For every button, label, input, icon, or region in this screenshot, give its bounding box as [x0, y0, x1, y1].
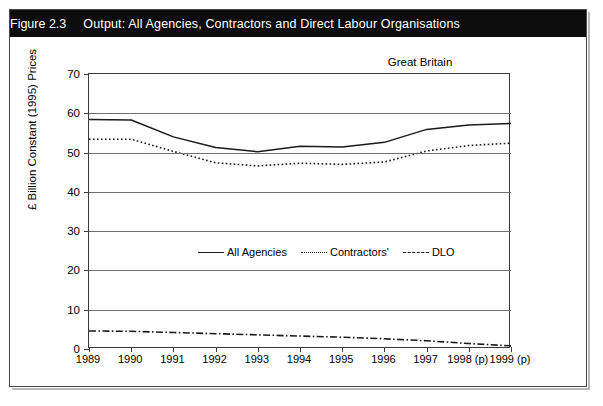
x-axis-tick-label: 1998 (p)	[447, 353, 488, 365]
series-lines-group	[89, 74, 511, 349]
y-axis-tick-label: 40	[67, 186, 80, 198]
x-axis-tick-label: 1997	[413, 353, 437, 365]
x-axis-tick	[216, 347, 217, 352]
y-axis-tick	[84, 231, 89, 232]
legend-label-contractors: Contractors'	[330, 246, 389, 258]
x-axis-tick	[427, 347, 428, 352]
legend-label-all-agencies: All Agencies	[227, 246, 287, 258]
y-axis-tick-label: 30	[67, 225, 80, 237]
y-axis-tick	[84, 113, 89, 114]
y-axis-tick-label: 20	[67, 264, 80, 276]
y-axis-tick-label: 60	[67, 107, 80, 119]
gridline	[89, 231, 511, 232]
x-axis-tick	[342, 347, 343, 352]
x-axis-tick-label: 1993	[245, 353, 269, 365]
x-axis-tick	[173, 347, 174, 352]
x-axis-tick	[131, 347, 132, 352]
x-axis-tick-label: 1999 (p)	[490, 353, 531, 365]
y-axis-tick	[84, 153, 89, 154]
chart-canvas: £ Billion Constant (1995) Prices Great B…	[0, 0, 603, 406]
legend-swatch-solid-icon	[198, 252, 224, 253]
region-annotation: Great Britain	[388, 56, 453, 68]
plot-frame: 010203040506070	[88, 73, 510, 348]
x-axis-tick	[511, 347, 512, 352]
gridline	[89, 192, 511, 193]
x-axis-tick	[469, 347, 470, 352]
chart-legend: All Agencies Contractors' DLO	[198, 246, 455, 258]
legend-item-all-agencies: All Agencies	[198, 246, 287, 258]
x-axis-tick-label: 1996	[371, 353, 395, 365]
y-axis-tick	[84, 270, 89, 271]
x-axis-tick	[258, 347, 259, 352]
legend-label-dlo: DLO	[432, 246, 455, 258]
legend-swatch-dotted-icon	[301, 252, 327, 253]
gridline	[89, 153, 511, 154]
x-axis-tick	[300, 347, 301, 352]
x-axis-tick-label: 1992	[202, 353, 226, 365]
y-axis-tick-label: 10	[67, 304, 80, 316]
x-axis-tick-label: 1991	[160, 353, 184, 365]
y-axis-title: £ Billion Constant (1995) Prices	[26, 49, 38, 210]
series-line-all-agencies	[89, 120, 511, 152]
y-axis-tick	[84, 74, 89, 75]
x-axis-tick-label: 1995	[329, 353, 353, 365]
x-axis-tick	[89, 347, 90, 352]
y-axis-tick	[84, 310, 89, 311]
legend-item-dlo: DLO	[403, 246, 455, 258]
gridline	[89, 270, 511, 271]
x-axis-tick-label: 1994	[287, 353, 311, 365]
series-line-dlo	[89, 331, 511, 346]
y-axis-tick	[84, 192, 89, 193]
x-axis-tick	[384, 347, 385, 352]
gridline	[89, 310, 511, 311]
y-axis-tick-label: 70	[67, 68, 80, 80]
gridline	[89, 113, 511, 114]
legend-item-contractors: Contractors'	[301, 246, 389, 258]
y-axis-tick-label: 50	[67, 147, 80, 159]
x-axis-tick-label: 1989	[76, 353, 100, 365]
legend-swatch-dashdot-icon	[403, 252, 429, 253]
x-axis-tick-label: 1990	[118, 353, 142, 365]
